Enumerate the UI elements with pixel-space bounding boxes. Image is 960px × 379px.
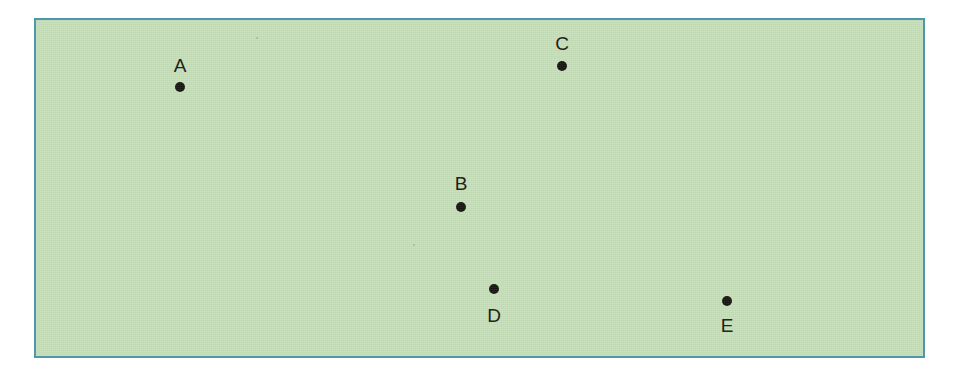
point-label-a: A xyxy=(160,56,200,75)
figure-canvas: ABCDE xyxy=(0,0,960,379)
point-label-e: E xyxy=(707,316,747,335)
point-marker-b-dot-icon xyxy=(456,202,466,212)
point-label-b: B xyxy=(441,174,481,193)
point-label-c: C xyxy=(542,34,582,53)
point-marker-c-dot-icon xyxy=(557,61,567,71)
point-marker-d-dot-icon xyxy=(489,284,499,294)
point-marker-e-dot-icon xyxy=(722,296,732,306)
plot-frame: ABCDE xyxy=(34,18,925,358)
point-label-d: D xyxy=(474,306,514,325)
point-marker-a-dot-icon xyxy=(175,82,185,92)
paper-speck xyxy=(413,244,415,246)
paper-speck xyxy=(256,37,258,39)
